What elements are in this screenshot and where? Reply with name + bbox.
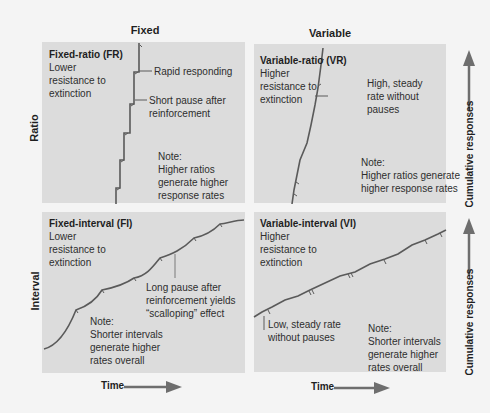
- cumulative-responses-arrow-bottom: [0, 0, 490, 413]
- y-axis-label-bottom: Cumulative responses: [464, 272, 475, 376]
